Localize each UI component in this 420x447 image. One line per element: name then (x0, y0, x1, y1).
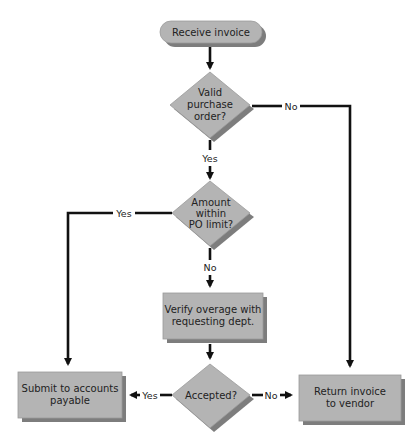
edge-labels: Yes No Yes No Yes No (115, 101, 297, 401)
edge-label-within-limit-no: No (204, 262, 217, 273)
node-return-label-1: Return invoice (314, 386, 386, 397)
node-within-limit-label-3: PO limit? (189, 219, 233, 230)
node-start: Receive invoice (160, 21, 266, 47)
node-return-label-2: to vendor (326, 398, 375, 409)
edge-label-valid-po-no: No (285, 101, 298, 112)
node-submit: Submit to accounts payable (18, 372, 126, 422)
flowchart: Yes No Yes No Yes No Receive invoice Val… (0, 0, 420, 447)
node-submit-label-2: payable (50, 395, 90, 406)
node-within-limit-label-1: Amount (191, 197, 230, 208)
node-start-label: Receive invoice (172, 27, 250, 38)
node-valid-po-label-1: Valid (198, 87, 222, 98)
edge-label-valid-po-yes: Yes (201, 153, 217, 164)
node-verify-label-2: requesting dept. (172, 316, 255, 327)
node-valid-po: Valid purchase order? (170, 72, 254, 142)
node-return: Return invoice to vendor (299, 375, 405, 425)
edge-valid-po-no-route (300, 106, 350, 366)
edge-label-accepted-yes: Yes (141, 390, 157, 401)
node-submit-label-1: Submit to accounts (22, 383, 119, 394)
node-verify: Verify overage with requesting dept. (163, 293, 267, 343)
edge-label-within-limit-yes: Yes (115, 208, 131, 219)
node-accepted-label: Accepted? (185, 390, 237, 401)
node-valid-po-label-2: purchase (187, 99, 233, 110)
node-accepted: Accepted? (172, 364, 254, 432)
edge-within-limit-yes-route (68, 213, 113, 364)
node-valid-po-label-3: order? (194, 111, 226, 122)
edge-label-accepted-no: No (265, 390, 278, 401)
node-verify-label-1: Verify overage with (165, 304, 262, 315)
node-within-limit: Amount within PO limit? (172, 181, 254, 250)
node-within-limit-label-2: within (196, 208, 226, 219)
